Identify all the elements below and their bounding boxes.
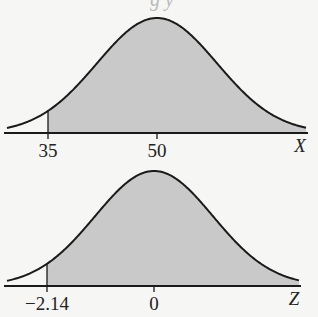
header-partial-text: g y xyxy=(150,0,174,11)
x-tick-label-35: 35 xyxy=(39,140,58,161)
z-axis-label: Z xyxy=(289,288,300,309)
z-distribution-panel: −2.14 0 Z xyxy=(4,171,301,314)
x-tick-label-50: 50 xyxy=(148,140,167,161)
x-distribution-panel: 35 50 X xyxy=(4,18,308,161)
normal-distribution-figure: g y 35 50 X −2.14 0 Z xyxy=(0,0,318,317)
z-tick-label-neg-2-14: −2.14 xyxy=(25,293,69,314)
x-axis-label: X xyxy=(293,135,307,156)
z-tick-label-0: 0 xyxy=(149,293,159,314)
